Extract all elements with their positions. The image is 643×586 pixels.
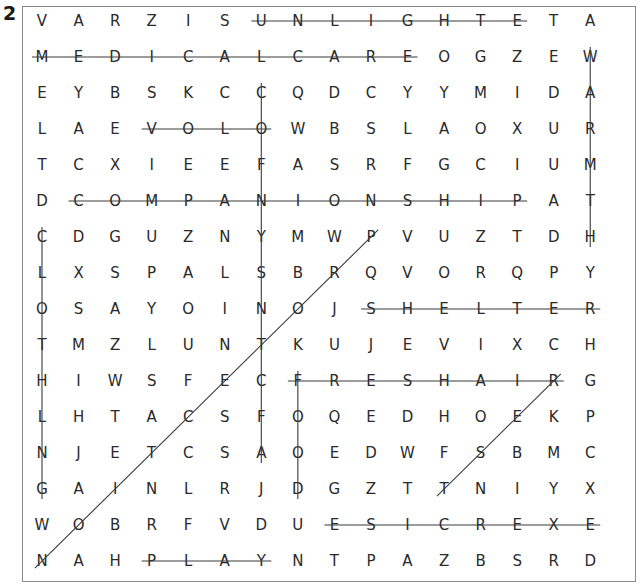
- grid-cell[interactable]: J: [64, 438, 94, 468]
- grid-cell[interactable]: T: [466, 6, 496, 36]
- grid-cell[interactable]: R: [575, 294, 605, 324]
- grid-cell[interactable]: I: [502, 474, 532, 504]
- grid-cell[interactable]: Y: [539, 474, 569, 504]
- grid-cell[interactable]: V: [393, 222, 423, 252]
- grid-cell[interactable]: N: [246, 294, 276, 324]
- grid-cell[interactable]: K: [539, 402, 569, 432]
- grid-cell[interactable]: E: [100, 114, 130, 144]
- grid-cell[interactable]: N: [27, 546, 57, 576]
- grid-cell[interactable]: P: [539, 258, 569, 288]
- grid-cell[interactable]: I: [502, 366, 532, 396]
- grid-cell[interactable]: Z: [173, 222, 203, 252]
- grid-cell[interactable]: E: [539, 294, 569, 324]
- grid-cell[interactable]: L: [246, 42, 276, 72]
- grid-cell[interactable]: X: [539, 510, 569, 540]
- grid-cell[interactable]: E: [393, 42, 423, 72]
- grid-cell[interactable]: C: [173, 42, 203, 72]
- grid-cell[interactable]: R: [466, 510, 496, 540]
- grid-cell[interactable]: C: [173, 402, 203, 432]
- grid-cell[interactable]: W: [319, 222, 349, 252]
- grid-cell[interactable]: A: [210, 186, 240, 216]
- grid-cell[interactable]: N: [27, 438, 57, 468]
- grid-cell[interactable]: E: [539, 42, 569, 72]
- grid-cell[interactable]: A: [137, 402, 167, 432]
- grid-cell[interactable]: O: [64, 510, 94, 540]
- grid-cell[interactable]: G: [27, 474, 57, 504]
- grid-cell[interactable]: C: [27, 222, 57, 252]
- grid-cell[interactable]: N: [283, 546, 313, 576]
- grid-cell[interactable]: V: [393, 258, 423, 288]
- grid-cell[interactable]: D: [356, 438, 386, 468]
- grid-cell[interactable]: S: [393, 186, 423, 216]
- grid-cell[interactable]: B: [466, 546, 496, 576]
- grid-cell[interactable]: R: [100, 6, 130, 36]
- grid-cell[interactable]: H: [64, 402, 94, 432]
- grid-cell[interactable]: A: [246, 438, 276, 468]
- grid-cell[interactable]: W: [393, 438, 423, 468]
- grid-cell[interactable]: L: [173, 474, 203, 504]
- grid-cell[interactable]: U: [319, 330, 349, 360]
- grid-cell[interactable]: X: [502, 330, 532, 360]
- grid-cell[interactable]: C: [64, 150, 94, 180]
- grid-cell[interactable]: O: [283, 438, 313, 468]
- grid-cell[interactable]: F: [283, 366, 313, 396]
- grid-cell[interactable]: O: [283, 294, 313, 324]
- grid-cell[interactable]: Q: [319, 402, 349, 432]
- grid-cell[interactable]: G: [393, 6, 423, 36]
- grid-cell[interactable]: T: [575, 186, 605, 216]
- grid-cell[interactable]: W: [27, 510, 57, 540]
- grid-cell[interactable]: P: [356, 546, 386, 576]
- grid-cell[interactable]: I: [466, 186, 496, 216]
- grid-cell[interactable]: H: [575, 330, 605, 360]
- grid-cell[interactable]: N: [210, 222, 240, 252]
- grid-cell[interactable]: S: [319, 150, 349, 180]
- grid-cell[interactable]: U: [539, 114, 569, 144]
- grid-cell[interactable]: O: [283, 402, 313, 432]
- grid-cell[interactable]: O: [100, 186, 130, 216]
- grid-cell[interactable]: Y: [246, 546, 276, 576]
- grid-cell[interactable]: Z: [137, 6, 167, 36]
- grid-cell[interactable]: R: [356, 42, 386, 72]
- grid-cell[interactable]: F: [393, 150, 423, 180]
- grid-cell[interactable]: N: [283, 6, 313, 36]
- grid-cell[interactable]: A: [283, 150, 313, 180]
- grid-cell[interactable]: A: [575, 6, 605, 36]
- grid-cell[interactable]: T: [100, 402, 130, 432]
- grid-cell[interactable]: R: [356, 150, 386, 180]
- grid-cell[interactable]: Y: [137, 294, 167, 324]
- grid-cell[interactable]: C: [429, 510, 459, 540]
- grid-cell[interactable]: X: [502, 114, 532, 144]
- grid-cell[interactable]: W: [283, 114, 313, 144]
- grid-cell[interactable]: B: [283, 258, 313, 288]
- grid-cell[interactable]: Y: [246, 222, 276, 252]
- grid-cell[interactable]: O: [466, 402, 496, 432]
- grid-cell[interactable]: H: [393, 294, 423, 324]
- grid-cell[interactable]: I: [137, 150, 167, 180]
- grid-cell[interactable]: T: [502, 222, 532, 252]
- grid-cell[interactable]: A: [64, 114, 94, 144]
- grid-cell[interactable]: F: [173, 510, 203, 540]
- grid-cell[interactable]: A: [466, 366, 496, 396]
- grid-cell[interactable]: C: [539, 330, 569, 360]
- grid-cell[interactable]: A: [210, 42, 240, 72]
- grid-cell[interactable]: H: [429, 186, 459, 216]
- grid-cell[interactable]: S: [210, 402, 240, 432]
- grid-cell[interactable]: E: [100, 438, 130, 468]
- grid-cell[interactable]: U: [283, 510, 313, 540]
- grid-cell[interactable]: D: [283, 474, 313, 504]
- grid-cell[interactable]: H: [575, 222, 605, 252]
- grid-cell[interactable]: O: [246, 114, 276, 144]
- grid-cell[interactable]: S: [356, 294, 386, 324]
- grid-cell[interactable]: S: [210, 6, 240, 36]
- grid-cell[interactable]: E: [319, 438, 349, 468]
- grid-cell[interactable]: V: [429, 330, 459, 360]
- grid-cell[interactable]: I: [100, 474, 130, 504]
- grid-cell[interactable]: C: [246, 366, 276, 396]
- grid-cell[interactable]: I: [356, 6, 386, 36]
- grid-cell[interactable]: E: [27, 78, 57, 108]
- grid-cell[interactable]: Z: [356, 474, 386, 504]
- grid-cell[interactable]: R: [137, 510, 167, 540]
- grid-cell[interactable]: A: [64, 6, 94, 36]
- grid-cell[interactable]: D: [246, 510, 276, 540]
- grid-cell[interactable]: H: [429, 366, 459, 396]
